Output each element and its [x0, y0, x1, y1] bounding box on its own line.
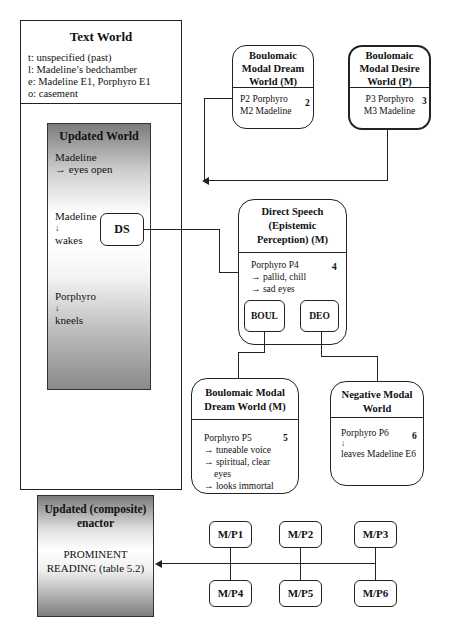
mp-node-5: M/P5 [279, 580, 322, 607]
body-line: eyes [204, 468, 298, 480]
connector [219, 229, 220, 273]
arrow-left-icon [202, 177, 209, 185]
connector [238, 352, 239, 379]
title-line: Boulomaic [350, 49, 429, 62]
connector [230, 548, 231, 580]
connector [219, 272, 239, 273]
connector [160, 563, 376, 564]
box-body: Porphyro P6 ↓ leaves Madeline E6 [331, 418, 423, 460]
updated-world-title: Updated World [48, 124, 150, 144]
connector [300, 548, 301, 580]
ds-node: DS [100, 213, 144, 246]
composite-enactor-box: Updated (composite) enactor PROMINENT RE… [37, 495, 154, 617]
composite-enactor-title: Updated (composite) enactor [38, 496, 153, 530]
box-header: Negative Modal World [331, 382, 423, 418]
updated-world-item-1: Madeline → eyes open [55, 151, 112, 175]
connector [144, 229, 220, 230]
title-line: enactor [38, 516, 153, 530]
title-line: Negative Modal [331, 388, 423, 402]
down-arrow-icon: ↓ [341, 439, 423, 448]
text-world-params: t: unspecified (past) l: Madeline’s bedc… [21, 45, 181, 100]
body-line: P2 Porphyro [240, 93, 313, 105]
mp-node-3: M/P3 [354, 521, 397, 548]
body-line: → spiritual, clear [204, 456, 298, 468]
body-line: → looks immortal [204, 480, 298, 492]
box-header: Direct Speech (Epistemic Perception) (M) [239, 200, 346, 253]
item-desc: → eyes open [55, 163, 112, 175]
body-line: → sad eyes [251, 283, 346, 295]
arrow-left-icon [155, 560, 162, 568]
body-line: M3 Madeline [350, 105, 429, 117]
connector [321, 356, 378, 357]
box-body: Porphyro P4 → pallid, chill → sad eyes [239, 253, 346, 295]
box-body: P2 Porphyro M2 Madeline [233, 88, 313, 117]
boul-desire-world-top: Boulomaic Modal Desire World (P) P3 Porp… [348, 45, 431, 130]
title-line: Perception) (M) [239, 233, 346, 247]
title-line: Boulomaic [233, 49, 313, 62]
title-line: Updated (composite) [38, 502, 153, 516]
param-location: l: Madeline’s bedchamber [28, 64, 181, 76]
connector [204, 98, 232, 99]
updated-world-box: Updated World Madeline → eyes open Madel… [47, 123, 151, 390]
world-number: 6 [412, 431, 417, 441]
world-number: 5 [283, 433, 288, 443]
title-line: Direct Speech [239, 205, 346, 219]
deo-node: DEO [300, 300, 339, 332]
updated-world-porphyro: Porphyro ↓ kneels [55, 290, 96, 326]
item-desc: kneels [55, 314, 96, 326]
reading-line: READING (table 5.2) [38, 561, 153, 575]
title-line: Modal Dream [233, 62, 313, 75]
connector [321, 332, 322, 357]
title-line: World (M) [233, 75, 313, 88]
down-arrow-icon: ↓ [55, 222, 97, 234]
body-line: P3 Porphyro [350, 93, 429, 105]
body-line: Porphyro P6 [341, 427, 423, 439]
box-body: P3 Porphyro M3 Madeline [350, 88, 429, 117]
world-number: 2 [305, 98, 310, 108]
boul-dream-world-top: Boulomaic Modal Dream World (M) P2 Porph… [232, 45, 314, 129]
text-world-header: Text World t: unspecified (past) l: Made… [21, 21, 181, 104]
updated-world-item-2: Madeline ↓ wakes [55, 210, 97, 246]
body-line: M2 Madeline [240, 105, 313, 117]
param-objects: o: casement [28, 88, 181, 100]
box-header: Boulomaic Modal Dream World (M) [192, 379, 298, 420]
box-header: Boulomaic Modal Desire World (P) [350, 47, 429, 88]
boul-node: BOUL [244, 300, 285, 332]
param-time: t: unspecified (past) [28, 52, 181, 64]
title-line: World [331, 402, 423, 416]
title-line: Boulomaic Modal [192, 386, 298, 400]
connector [238, 352, 265, 353]
world-number: 3 [422, 96, 427, 106]
mp-node-6: M/P6 [354, 580, 397, 607]
world-number: 4 [332, 262, 337, 272]
box-body: Porphyro P5 → tuneable voice → spiritual… [192, 420, 298, 492]
reading-line: PROMINENT [38, 547, 153, 561]
connector [377, 356, 378, 383]
boul-dream-world-bottom: Boulomaic Modal Dream World (M) Porphyro… [191, 378, 299, 494]
body-line: → pallid, chill [251, 271, 346, 283]
item-desc: wakes [55, 234, 97, 246]
item-name: Porphyro [55, 290, 96, 302]
mp-node-4: M/P4 [209, 580, 252, 607]
param-enactors: e: Madeline E1, Porphyro E1 [28, 76, 181, 88]
down-arrow-icon: ↓ [55, 302, 96, 314]
mp-node-2: M/P2 [279, 521, 322, 548]
prominent-reading: PROMINENT READING (table 5.2) [38, 530, 153, 575]
item-name: Madeline [55, 151, 112, 163]
title-line: Dream World (M) [192, 400, 298, 414]
connector [375, 548, 376, 580]
body-line: → tuneable voice [204, 444, 298, 456]
mp-node-1: M/P1 [209, 521, 252, 548]
negative-modal-world: Negative Modal World Porphyro P6 ↓ leave… [330, 381, 424, 486]
connector [204, 98, 205, 181]
text-world-title: Text World [21, 21, 181, 45]
body-line: leaves Madeline E6 [341, 448, 423, 460]
box-header: Boulomaic Modal Dream World (M) [233, 46, 313, 88]
title-line: (Epistemic [239, 219, 346, 233]
item-name: Madeline [55, 210, 97, 222]
connector [208, 180, 388, 181]
connector [264, 332, 265, 353]
connector [387, 130, 388, 181]
title-line: World (P) [350, 75, 429, 88]
title-line: Modal Desire [350, 62, 429, 75]
